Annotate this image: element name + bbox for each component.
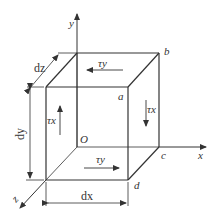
vertex-c-label: c (161, 149, 166, 161)
z-axis (20, 180, 46, 208)
tau-y-bottom-label: τy (96, 153, 105, 165)
z-axis-label: z (8, 192, 21, 205)
vertex-a-label: a (118, 90, 124, 102)
dy-dimension (26, 89, 44, 180)
x-axis-label: x (197, 149, 203, 161)
tau-y-top-label: τy (98, 57, 107, 69)
dx-label: dx (81, 189, 93, 203)
dz-label: dz (34, 61, 45, 75)
dy-label: dy (13, 128, 27, 140)
diagram-canvas: dz dy dx τy τy τx τx a (0, 0, 218, 222)
tau-x-right-label: τx (147, 103, 156, 115)
origin-label: O (80, 133, 88, 145)
y-axis-label: y (68, 17, 74, 29)
vertex-d-label: d (134, 179, 140, 191)
stress-cube-diagram: dz dy dx τy τy τx τx a (0, 0, 218, 222)
tau-x-left-label: τx (47, 114, 56, 126)
vertex-b-label: b (164, 45, 170, 57)
